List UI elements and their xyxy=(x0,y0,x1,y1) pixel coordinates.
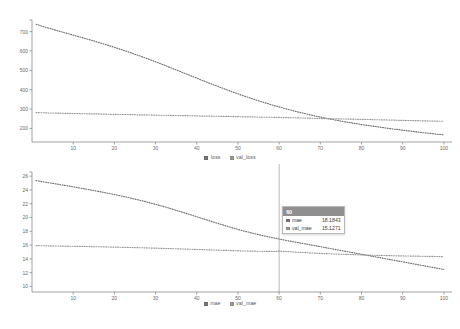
tooltip-swatch-mae-icon xyxy=(286,219,290,223)
legend-swatch-val-loss-icon xyxy=(230,156,234,160)
legend-label-val-mae: val_mae xyxy=(236,301,256,306)
svg-text:300: 300 xyxy=(20,106,29,112)
svg-text:20: 20 xyxy=(22,214,28,220)
loss-chart-panel: 200300400500600700102030405060708090100 xyxy=(0,0,460,165)
svg-text:26: 26 xyxy=(22,173,28,179)
tooltip-row-val-mae: val_mae 15.1271 xyxy=(283,225,344,233)
svg-text:14: 14 xyxy=(22,256,28,262)
legend-entry-mae[interactable]: mae xyxy=(204,301,221,306)
mae-legend: mae val_mae xyxy=(0,301,460,306)
tooltip-name-mae: mae xyxy=(292,218,314,224)
svg-text:200: 200 xyxy=(20,125,29,131)
svg-text:700: 700 xyxy=(20,29,29,35)
svg-text:60: 60 xyxy=(276,145,282,151)
svg-text:16: 16 xyxy=(22,242,28,248)
svg-text:18: 18 xyxy=(22,228,28,234)
svg-text:24: 24 xyxy=(22,187,28,193)
tooltip-name-val-mae: val_mae xyxy=(292,226,314,232)
tooltip-row-mae: mae 18.1843 xyxy=(283,216,344,224)
tooltip-value-mae: 18.1843 xyxy=(314,218,341,224)
svg-text:500: 500 xyxy=(20,67,29,73)
loss-chart-svg: 200300400500600700102030405060708090100 xyxy=(0,0,460,165)
legend-swatch-loss-icon xyxy=(204,156,208,160)
svg-text:90: 90 xyxy=(400,145,406,151)
legend-swatch-mae-icon xyxy=(204,302,208,306)
svg-text:70: 70 xyxy=(318,145,324,151)
svg-text:20: 20 xyxy=(112,145,118,151)
legend-label-mae: mae xyxy=(210,301,220,306)
legend-entry-val-mae[interactable]: val_mae xyxy=(230,301,257,306)
svg-text:50: 50 xyxy=(235,145,241,151)
svg-text:100: 100 xyxy=(440,145,449,151)
svg-text:30: 30 xyxy=(153,145,159,151)
legend-swatch-val-mae-icon xyxy=(230,302,234,306)
loss-plot-area: 200300400500600700102030405060708090100 xyxy=(0,0,460,165)
svg-text:600: 600 xyxy=(20,48,29,54)
svg-text:80: 80 xyxy=(359,145,365,151)
svg-text:12: 12 xyxy=(22,270,28,276)
tooltip-header: 60 xyxy=(283,207,344,216)
svg-text:10: 10 xyxy=(22,283,28,289)
tooltip-value-val-mae: 15.1271 xyxy=(314,226,341,232)
chart-tooltip: 60 mae 18.1843 val_mae 15.1271 xyxy=(282,206,345,234)
svg-text:40: 40 xyxy=(194,145,200,151)
svg-text:10: 10 xyxy=(70,145,76,151)
svg-text:22: 22 xyxy=(22,201,28,207)
svg-text:400: 400 xyxy=(20,87,29,93)
tooltip-swatch-val-mae-icon xyxy=(286,227,290,231)
